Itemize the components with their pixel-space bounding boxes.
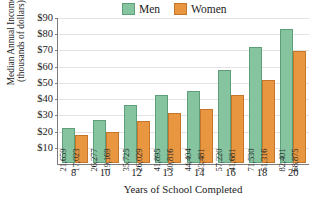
bar-women-20[interactable]: 68,875: [293, 51, 306, 163]
y-axis-tick-mark: [55, 67, 58, 68]
y-axis-tick-mark: [55, 50, 58, 51]
y-axis-tick-label: $40: [37, 94, 53, 104]
bar-group: 57,22041,681: [215, 18, 246, 163]
bar-group: 44,40433,481: [184, 18, 215, 163]
bar-group: 26,27719,169: [90, 18, 121, 163]
y-axis-tick-mark: [55, 83, 58, 84]
x-axis-tick-label: 14: [184, 167, 215, 179]
bar-women-10[interactable]: 19,169: [106, 132, 119, 163]
x-axis-tick-label: 16: [215, 167, 246, 179]
y-axis-title-line1: Median Annual Income: [6, 0, 17, 85]
y-axis-tick-label: $90: [37, 13, 53, 23]
x-axis-tick-label: 12: [121, 167, 152, 179]
x-axis-tick-label: 18: [246, 167, 277, 179]
chart-legend: Men Women: [122, 2, 227, 16]
y-axis-tick-label: $30: [37, 110, 53, 120]
y-axis-tick-mark: [55, 132, 58, 133]
x-axis-tick-label: 10: [89, 167, 120, 179]
legend-swatch-men: [122, 3, 135, 15]
x-axis-tick-label: 20: [278, 167, 309, 179]
bar-women-13[interactable]: 30,816: [168, 113, 181, 163]
bar-women-16[interactable]: 41,681: [231, 95, 244, 163]
x-axis-title: Years of School Completed: [57, 183, 309, 195]
bar-groups: 21,65917,02326,27719,16935,72526,02941,8…: [59, 18, 309, 163]
plot-area: $90$80$70$60$50$40$30$20$10 21,65917,023…: [57, 18, 309, 165]
legend-label-men: Men: [139, 4, 160, 15]
legend-swatch-women: [174, 3, 187, 15]
y-axis-tick-mark: [55, 115, 58, 116]
x-axis-tick-label: 13: [152, 167, 183, 179]
y-axis-title-line2: (thousands of dollars): [16, 0, 27, 85]
bar-women-14[interactable]: 33,481: [200, 109, 213, 163]
y-axis-tick-mark: [55, 18, 58, 19]
y-axis-tick-label: $70: [37, 45, 53, 55]
y-axis-tick-mark: [55, 34, 58, 35]
bar-men-20[interactable]: 82,401: [280, 29, 293, 163]
legend-entry-women: Women: [174, 3, 226, 15]
y-axis-tick-label: $10: [37, 143, 53, 153]
y-axis-tick-label: $60: [37, 62, 53, 72]
x-axis-tick-label: 8: [58, 167, 89, 179]
y-axis-tick-label: $80: [37, 29, 53, 39]
bar-group: 21,65917,023: [59, 18, 90, 163]
y-axis-tick-label: $50: [37, 78, 53, 88]
y-axis-tick-label: $20: [37, 127, 53, 137]
bar-group: 71,53051,316: [247, 18, 278, 163]
bar-women-18[interactable]: 51,316: [262, 80, 275, 163]
bar-group: 41,89530,816: [153, 18, 184, 163]
bar-men-18[interactable]: 71,530: [249, 47, 262, 163]
legend-entry-men: Men: [122, 3, 160, 15]
y-axis-tick-mark: [55, 99, 58, 100]
x-axis-tick-labels: 810121314161820: [58, 167, 309, 179]
bar-chart: Men Women Median Annual Income (thousand…: [0, 0, 315, 202]
bar-group: 35,72526,029: [122, 18, 153, 163]
bar-group: 82,40168,875: [278, 18, 309, 163]
bar-women-12[interactable]: 26,029: [137, 121, 150, 163]
y-axis-title: Median Annual Income (thousands of dolla…: [0, 0, 32, 106]
bar-women-8[interactable]: 17,023: [75, 135, 88, 163]
legend-label-women: Women: [191, 4, 226, 15]
